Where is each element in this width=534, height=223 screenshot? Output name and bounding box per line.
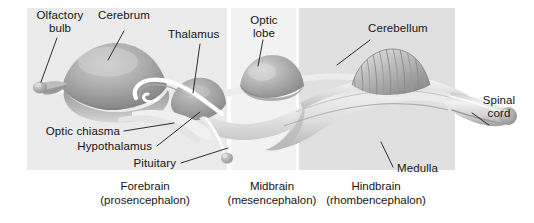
label-olfactory-bulb-line1: Olfactory bbox=[37, 9, 84, 21]
label-thalamus: Thalamus bbox=[168, 28, 219, 41]
optic-lobe-highlight bbox=[248, 63, 276, 81]
label-spinal-cord-line1: Spinal bbox=[483, 94, 516, 106]
label-optic-lobe: Optic lobe bbox=[238, 14, 290, 39]
region-forebrain-alt: (prosencephalon) bbox=[60, 194, 230, 208]
region-midbrain-name: Midbrain bbox=[250, 180, 294, 192]
label-medulla: Medulla bbox=[397, 162, 438, 175]
region-caption-hindbrain: Hindbrain (rhombencephalon) bbox=[310, 180, 442, 207]
label-cerebellum: Cerebellum bbox=[368, 22, 428, 35]
pituitary-highlight bbox=[223, 154, 228, 158]
brain-diagram-figure: Olfactory bulb Cerebrum Thalamus Optic l… bbox=[0, 0, 534, 223]
olfactory-bulb-highlight bbox=[35, 83, 41, 87]
label-spinal-cord-line2: cord bbox=[488, 107, 511, 119]
label-optic-chiasma: Optic chiasma bbox=[14, 125, 120, 138]
label-optic-lobe-line1: Optic bbox=[250, 14, 277, 26]
region-caption-forebrain: Forebrain (prosencephalon) bbox=[60, 180, 230, 207]
label-hypothalamus: Hypothalamus bbox=[40, 140, 152, 153]
label-cerebrum: Cerebrum bbox=[98, 9, 150, 22]
label-olfactory-bulb: Olfactory bulb bbox=[24, 9, 96, 34]
region-forebrain-name: Forebrain bbox=[120, 180, 169, 192]
label-pituitary: Pituitary bbox=[90, 157, 176, 170]
label-optic-lobe-line2: lobe bbox=[253, 27, 275, 39]
olfactory-bulb bbox=[33, 82, 47, 94]
region-hindbrain-alt: (rhombencephalon) bbox=[310, 194, 442, 208]
pituitary-gland bbox=[221, 153, 233, 164]
region-hindbrain-name: Hindbrain bbox=[351, 180, 400, 192]
label-olfactory-bulb-line2: bulb bbox=[49, 22, 71, 34]
label-spinal-cord: Spinal cord bbox=[471, 94, 527, 119]
